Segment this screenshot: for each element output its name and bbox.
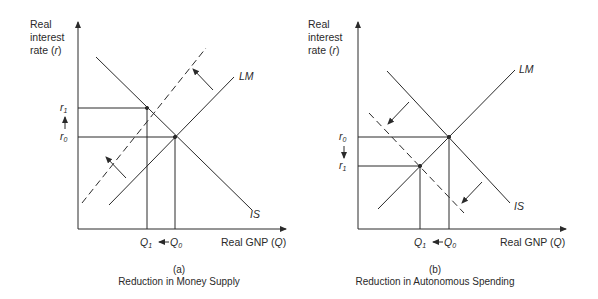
r0-label-a: r0 (60, 130, 67, 146)
q0-label-a: Q0 (170, 236, 182, 252)
lm-label-a: LM (239, 70, 254, 82)
lm-label-b: LM (519, 63, 534, 75)
equilibrium-old-a (173, 135, 176, 138)
y-axis-label-b-line1: Real (308, 18, 330, 30)
is-label-b: IS (514, 200, 524, 212)
q1-label-b: Q1 (414, 236, 426, 252)
caption-title-a: Reduction in Money Supply (79, 276, 279, 288)
x-axis-label-b: Real GNP (Q) (500, 236, 565, 248)
q1-label-a: Q1 (140, 236, 152, 252)
y-axis-label-a-line2: interest (30, 31, 64, 43)
y-axis-label-b-line2: interest (308, 31, 342, 43)
shift-arrow-lower-b (462, 182, 482, 203)
shift-arrow-upper-b (388, 102, 409, 124)
equilibrium-new-a (145, 106, 148, 109)
caption-letter-b: (b) (335, 264, 535, 276)
is-shifted-curve-b (369, 113, 464, 213)
shift-arrow-lower-a (106, 157, 126, 178)
q0-label-b: Q0 (444, 236, 456, 252)
r1-label-a: r1 (60, 101, 67, 117)
lm-curve-b (378, 70, 515, 209)
caption-title-b: Reduction in Autonomous Spending (335, 276, 535, 288)
panel-a (65, 22, 286, 229)
y-axis-label-a-line1: Real (30, 18, 52, 30)
lm-shifted-curve-a (82, 48, 206, 203)
caption-letter-a: (a) (79, 264, 279, 276)
x-axis-label-a: Real GNP (Q) (221, 236, 286, 248)
r1-label-b: r1 (339, 159, 346, 175)
shift-arrow-upper-a (193, 69, 213, 90)
y-axis-label-a-line3: rate (r) (30, 44, 62, 56)
panel-b (344, 22, 566, 229)
is-curve-a (96, 57, 252, 210)
is-label-a: IS (250, 208, 260, 220)
y-axis-label-b-line3: rate (r) (308, 44, 340, 56)
r0-label-b: r0 (339, 130, 346, 146)
lm-curve-a (109, 77, 234, 205)
islm-diagrams (0, 0, 598, 299)
equilibrium-new-b (418, 164, 421, 167)
equilibrium-old-b (447, 135, 450, 138)
